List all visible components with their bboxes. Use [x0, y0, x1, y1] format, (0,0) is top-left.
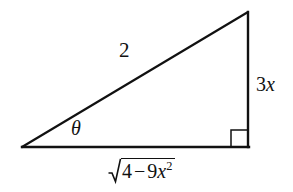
- angle-theta-label: θ: [71, 118, 81, 138]
- radicand-term-4: 4: [122, 160, 132, 182]
- radicand-minus-sign: −: [132, 160, 147, 182]
- adjacent-leg-label: 4−9x2: [108, 158, 175, 185]
- radical-sign-icon: [108, 158, 121, 182]
- radicand-exponent-2: 2: [166, 159, 172, 173]
- opposite-leg-variable: x: [266, 73, 275, 95]
- radicand-variable-x: x: [157, 160, 166, 182]
- radical-expression: 4−9x2: [108, 158, 175, 182]
- right-angle-marker: [231, 130, 248, 147]
- radicand: 4−9x2: [121, 158, 175, 182]
- triangle-hypotenuse-line: [22, 12, 248, 147]
- hypotenuse-label: 2: [119, 40, 130, 61]
- right-triangle-diagram: 2 θ 3x 4−9x2: [0, 0, 293, 192]
- opposite-leg-coefficient: 3: [256, 73, 266, 95]
- radicand-coefficient-9: 9: [147, 160, 157, 182]
- opposite-leg-label: 3x: [256, 74, 275, 94]
